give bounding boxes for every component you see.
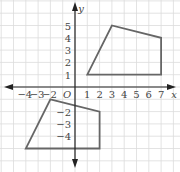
x-tick-label: 6 <box>146 89 152 100</box>
y-tick-label: 5 <box>65 21 71 32</box>
origin-label: O <box>63 89 71 100</box>
y-tick-label: −4 <box>56 131 71 142</box>
y-tick-label: −3 <box>56 119 71 130</box>
x-tick-label: 7 <box>158 89 164 100</box>
x-axis-label: x <box>171 89 177 100</box>
y-tick-label: −2 <box>56 107 71 118</box>
x-tick-label: 5 <box>133 89 139 100</box>
y-tick-label: 3 <box>65 45 71 56</box>
x-tick-label: 1 <box>84 89 90 100</box>
y-tick-label: 1 <box>65 70 71 81</box>
x-tick-label: 4 <box>121 89 127 100</box>
coordinate-plane: −4−3−2123456754321−2−3−4Oxy <box>0 0 180 172</box>
y-tick-label: 2 <box>65 57 71 68</box>
x-axis-arrow-left-icon <box>4 84 13 90</box>
y-tick-label: 4 <box>65 33 71 44</box>
x-tick-label: 3 <box>109 89 115 100</box>
tick-labels: −4−3−2123456754321−2−3−4Oxy <box>17 3 177 142</box>
x-tick-label: 2 <box>96 89 102 100</box>
axes <box>4 2 176 168</box>
y-axis-arrow-down-icon <box>72 159 78 168</box>
x-tick-label: −2 <box>42 89 57 100</box>
y-axis-label: y <box>77 3 84 14</box>
y-axis-arrow-up-icon <box>72 2 78 11</box>
